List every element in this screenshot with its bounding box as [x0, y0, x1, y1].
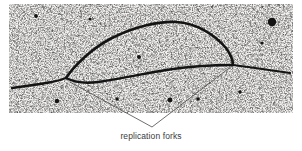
dna-strand-layer: [12, 22, 290, 88]
dna-left-tail: [12, 78, 66, 88]
figure-caption: replication forks: [0, 131, 302, 142]
dna-upper-arc: [66, 22, 233, 78]
leader-line-left-fork: [70, 82, 152, 127]
leader-line-layer: [70, 66, 232, 127]
replication-fork-figure: replication forks: [0, 0, 302, 151]
dna-lower-arc: [66, 65, 233, 83]
dna-right-tail: [233, 65, 290, 73]
leader-line-right-fork: [152, 66, 232, 127]
annotation-overlay: [0, 0, 302, 151]
